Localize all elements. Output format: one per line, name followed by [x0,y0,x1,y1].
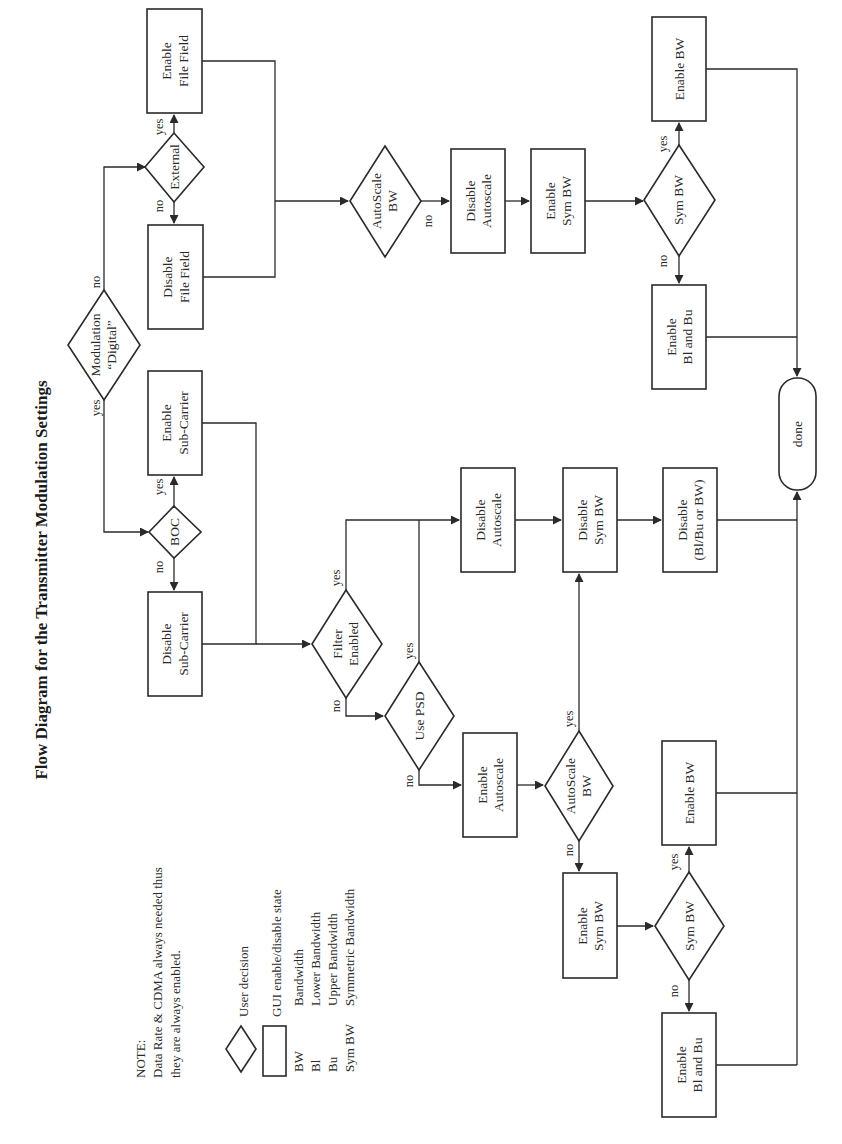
state-enable-file-field: Enable File Field [147,9,202,113]
node-label: External [167,144,182,190]
label-no: no [562,844,576,857]
note-line-1: Data Rate & CDMA always needed thus [150,867,165,1078]
rect-shape [147,9,202,113]
state-enable-bw-digital: Enable BW [652,17,706,121]
decision-autoscale-bw: AutoScale BW [545,731,613,841]
legend-decision-label: User decision [236,945,251,1017]
legend-abbr: BW [291,1050,306,1072]
node-label: Bl and Bu [690,1037,705,1092]
label-no: no [152,561,166,574]
decision-modulation: Modulation “Digital” [68,290,140,400]
decision-sym-bw-digital: Sym BW [644,145,715,256]
node-label: Enable [475,766,490,803]
node-label: AutoScale [563,758,578,814]
note: NOTE: Data Rate & CDMA always needed thu… [133,867,183,1078]
rect-shape [148,225,203,329]
node-label: Sym BW [671,175,686,225]
state-disable-subcarrier: Disable Sub-Carrier [148,592,202,696]
terminator-done: done [779,378,816,490]
node-label: Enable [575,907,590,944]
flow-diagram: Flow Diagram for the Transmitter Modulat… [0,0,842,1144]
label-yes: yes [89,400,103,417]
node-label: Sym BW [559,176,574,226]
node-label: Sym BW [682,901,697,951]
node-label: Filter [330,629,345,659]
rect-shape [662,1013,716,1117]
rect-shape [463,733,517,837]
node-label: Sub-Carrier [176,391,191,455]
node-label: Autoscale [491,758,506,812]
decision-filter-enabled: Filter Enabled [312,590,382,698]
node-label: Enable BW [682,761,697,824]
rect-shape [148,371,202,475]
rect-shape [461,468,515,572]
state-disable-autoscale: Disable Autoscale [461,468,515,572]
node-label: Disable [463,180,478,221]
legend-meaning: Symmetric Bandwidth [342,888,357,1006]
label-no: no [89,276,103,289]
label-yes: yes [667,854,681,871]
note-line-2: they are always enabled. [168,950,183,1078]
state-enable-bw: Enable BW [662,741,716,845]
state-disable-bl-bu-or-bw: Disable (Bl/Bu or BW) [663,468,717,572]
decision-use-psd: Use PSD [385,662,454,770]
node-label: Enable [543,182,558,219]
node-label: Disable [473,499,488,540]
state-enable-bl-bu-digital: Enable Bl and Bu [652,285,706,389]
label-yes: yes [562,711,576,728]
node-label: Modulation [88,313,103,376]
state-disable-autoscale-digital: Disable Autoscale [451,149,505,253]
node-label: Disable [160,256,175,297]
node-label: Enable [159,42,174,79]
node-label: Autoscale [489,493,504,547]
rect-shape [148,592,202,696]
node-label: Enable [664,318,679,355]
state-disable-file-field: Disable File Field [148,225,203,329]
node-label: “Digital” [104,320,119,369]
node-label: Use PSD [412,691,427,740]
rect-shape [451,149,505,253]
legend-abbr: Bu [325,1056,340,1072]
state-disable-sym-bw: Disable Sym BW [563,468,617,572]
state-enable-sym-bw-digital: Enable Sym BW [531,149,585,253]
node-label: Sym BW [591,495,606,545]
node-label: Enable [674,1046,689,1083]
node-label: Disable [675,499,690,540]
node-label: Bl and Bu [680,309,695,364]
legend-meaning: Bandwidth [291,948,306,1006]
legend: User decision GUI enable/disable state B… [226,888,357,1076]
note-heading: NOTE: [133,1040,148,1078]
decision-sym-bw: Sym BW [655,872,724,980]
state-enable-subcarrier: Enable Sub-Carrier [148,371,202,475]
node-label: File Field [176,35,191,87]
legend-meaning: Upper Bandwidth [325,913,340,1006]
legend-abbr: Bl [308,1059,323,1072]
label-no: no [667,985,681,998]
rect-shape [663,468,717,572]
node-label: BW [579,775,594,797]
node-label: Enable [159,404,174,441]
node-label: Enable BW [672,37,687,100]
state-enable-autoscale: Enable Autoscale [463,733,517,837]
state-enable-sym-bw: Enable Sym BW [563,873,617,978]
node-label: Disable [159,623,174,664]
rect-shape [652,285,706,389]
node-label: BOC [167,518,182,546]
node-label: Disable [575,499,590,540]
node-label: BW [385,190,400,212]
diagram-title: Flow Diagram for the Transmitter Modulat… [32,380,51,780]
state-enable-bl-bu: Enable Bl and Bu [662,1013,716,1117]
label-no: no [152,200,166,213]
label-no: no [421,215,435,228]
label-no: no [402,775,416,788]
decision-autoscale-bw-digital: AutoScale BW [350,146,421,257]
label-no: no [656,255,670,268]
legend-state-label: GUI enable/disable state [269,889,284,1017]
decision-boc: BOC [149,506,201,558]
label-yes: yes [152,119,166,136]
label-no: no [329,700,343,713]
node-label: Sym BW [591,901,606,951]
rect-shape [531,149,585,253]
label-yes: yes [656,136,670,153]
legend-rect-icon [263,1026,286,1076]
